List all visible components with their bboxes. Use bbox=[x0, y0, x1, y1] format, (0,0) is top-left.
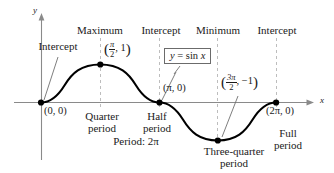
point-minimum bbox=[215, 137, 221, 143]
label-full-period: Full period bbox=[274, 128, 302, 151]
y-axis-label: y bbox=[33, 6, 37, 15]
label-three-quarter-period-line1: Three-quarter bbox=[204, 146, 264, 158]
sine-curve-diagram: y x Intercept Maximum Intercept Minimum … bbox=[0, 0, 334, 173]
label-intercept-full: Intercept bbox=[257, 25, 296, 37]
coord-minimum-close-paren: ) bbox=[253, 74, 258, 90]
coord-maximum-close-paren: ) bbox=[126, 41, 131, 57]
y-axis-arrowhead bbox=[39, 13, 45, 21]
function-label-variable: x bbox=[201, 50, 206, 61]
label-half-period: Half period bbox=[143, 111, 171, 134]
label-minimum: Minimum bbox=[196, 25, 240, 37]
coord-minimum: (3π2, −1) bbox=[221, 73, 258, 91]
leader-box-tail bbox=[174, 66, 180, 74]
label-full-period-line2: period bbox=[274, 140, 302, 152]
label-maximum: Maximum bbox=[77, 25, 123, 37]
label-quarter-period-line1: Quarter bbox=[85, 111, 119, 123]
label-half-period-line2: period bbox=[143, 123, 171, 135]
leader-lines bbox=[44, 57, 238, 137]
label-quarter-period: Quarter period bbox=[85, 111, 119, 134]
label-half-period-line1: Half bbox=[143, 111, 171, 123]
label-three-quarter-period: Three-quarter period bbox=[204, 146, 264, 169]
coord-two-pi-intercept: (2π, 0) bbox=[266, 105, 294, 116]
leader-intercept-origin bbox=[44, 57, 58, 100]
x-axis-arrowhead bbox=[307, 100, 315, 106]
label-intercept-origin: Intercept bbox=[38, 41, 77, 53]
coord-minimum-denominator: 2 bbox=[226, 82, 237, 92]
label-intercept-half: Intercept bbox=[141, 25, 180, 37]
point-maximum bbox=[97, 61, 103, 67]
label-period-note: Period: 2π bbox=[113, 136, 159, 148]
coord-maximum-open-paren: ( bbox=[104, 41, 109, 57]
coord-pi-intercept: (π, 0) bbox=[163, 82, 186, 93]
coord-minimum-numerator: 3π bbox=[226, 73, 237, 82]
coord-maximum-rest: , 1 bbox=[115, 42, 126, 53]
function-label-box: y = sin x bbox=[164, 48, 211, 64]
coord-maximum: (π2, 1) bbox=[104, 40, 131, 58]
coord-minimum-fraction: 3π2 bbox=[226, 73, 237, 91]
function-label-equals: = sin bbox=[175, 50, 201, 61]
coord-minimum-rest: , −1 bbox=[237, 75, 253, 86]
label-quarter-period-line2: period bbox=[85, 123, 119, 135]
label-full-period-line1: Full bbox=[274, 128, 302, 140]
point-pi-intercept bbox=[156, 99, 162, 105]
x-axis-label: x bbox=[320, 96, 324, 105]
coord-minimum-open-paren: ( bbox=[221, 74, 226, 90]
coord-origin: (0, 0) bbox=[44, 105, 67, 116]
label-three-quarter-period-line2: period bbox=[204, 158, 264, 170]
